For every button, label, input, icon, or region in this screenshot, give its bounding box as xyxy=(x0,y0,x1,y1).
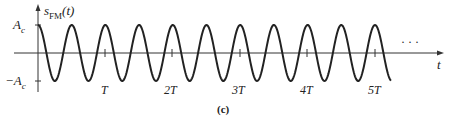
figure-caption: (c) xyxy=(217,104,229,115)
y-axis-arrow-icon xyxy=(36,4,41,11)
tick-label-2T: 2T xyxy=(164,84,177,96)
x-axis-label: t xyxy=(437,58,441,71)
y-axis-label: sFM(t) xyxy=(44,4,74,21)
tick-label-3T: 3T xyxy=(232,84,245,96)
continuation-ellipsis: · · · xyxy=(401,36,419,48)
negative-amplitude-label: −Ac xyxy=(5,74,26,91)
x-axis-arrow-icon xyxy=(437,51,444,56)
tick-label-5T: 5T xyxy=(368,84,381,96)
tick-label-T: T xyxy=(101,84,108,96)
positive-amplitude-label: Ac xyxy=(13,18,25,35)
tick-label-4T: 4T xyxy=(300,84,313,96)
